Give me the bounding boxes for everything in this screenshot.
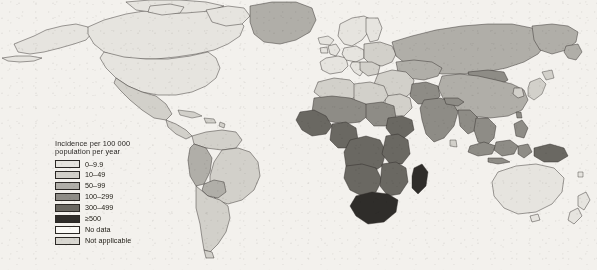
legend-label: 100–299 bbox=[85, 192, 113, 201]
legend-swatch bbox=[55, 182, 80, 190]
legend-label: ≥500 bbox=[85, 214, 101, 223]
region-victoria-island bbox=[148, 4, 184, 15]
map-legend: Incidence per 100 000 population per yea… bbox=[55, 140, 131, 247]
legend-swatch bbox=[55, 226, 80, 234]
region-sri-lanka bbox=[450, 140, 457, 147]
legend-label: 300–499 bbox=[85, 203, 113, 212]
legend-swatch bbox=[55, 237, 80, 245]
legend-label: No data bbox=[85, 225, 111, 234]
region-pacific-islands bbox=[578, 172, 583, 177]
legend-swatch bbox=[55, 204, 80, 212]
legend-label: 0–9.9 bbox=[85, 160, 103, 169]
legend-swatch bbox=[55, 215, 80, 223]
region-east-africa-kenya-tanzania bbox=[382, 134, 410, 164]
legend-item: 100–299 bbox=[55, 192, 131, 202]
legend-swatch bbox=[55, 193, 80, 201]
legend-item: 10–49 bbox=[55, 170, 131, 180]
region-taiwan bbox=[516, 112, 522, 118]
region-ireland bbox=[320, 47, 328, 53]
legend-label: 10–49 bbox=[85, 170, 105, 179]
legend-swatch bbox=[55, 160, 80, 168]
world-incidence-map-figure: on bien peace untied la est .ctry{stroke… bbox=[0, 0, 597, 270]
legend-label: Not applicable bbox=[85, 236, 131, 245]
legend-item: 50–99 bbox=[55, 181, 131, 191]
legend-item: No data bbox=[55, 225, 131, 235]
legend-label: 50–99 bbox=[85, 181, 105, 190]
legend-item: Not applicable bbox=[55, 236, 131, 246]
legend-item: ≥500 bbox=[55, 214, 131, 224]
legend-title: Incidence per 100 000 population per yea… bbox=[55, 140, 131, 157]
legend-title-line2: population per year bbox=[55, 148, 131, 156]
legend-item: 300–499 bbox=[55, 203, 131, 213]
legend-swatch bbox=[55, 171, 80, 179]
legend-item: 0–9.9 bbox=[55, 159, 131, 169]
